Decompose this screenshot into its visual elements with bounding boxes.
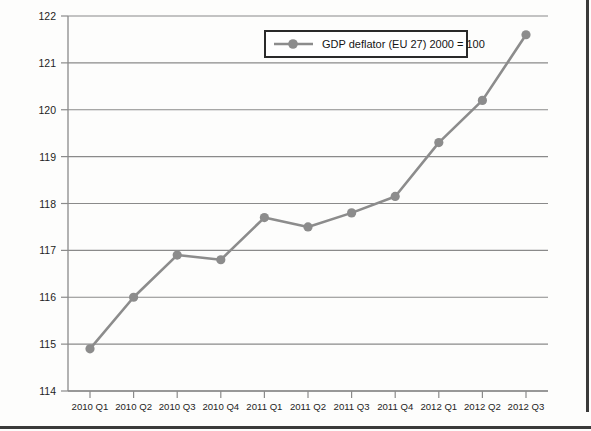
data-point-marker	[260, 213, 269, 222]
data-point-marker	[173, 250, 182, 259]
page-frame-right-rule	[586, 0, 589, 412]
series-gdp-deflator	[85, 30, 530, 353]
x-tick-label: 2011 Q4	[377, 401, 414, 412]
y-tick-labels: 114115116117118119120121122	[38, 10, 56, 397]
x-tick-marks	[90, 391, 526, 398]
data-point-marker	[85, 344, 94, 353]
y-axis	[61, 16, 68, 391]
y-tick-label: 122	[38, 10, 56, 22]
legend-sample-marker	[288, 39, 298, 49]
x-tick-label: 2011 Q2	[290, 401, 326, 412]
plot-svg: 114115116117118119120121122 2010 Q12010 …	[0, 0, 591, 431]
legend[interactable]: GDP deflator (EU 27) 2000 = 100	[265, 31, 485, 57]
y-tick-label: 118	[39, 198, 56, 210]
x-tick-label: 2012 Q3	[508, 401, 545, 412]
x-tick-label: 2012 Q1	[420, 401, 457, 412]
y-tick-label: 116	[39, 291, 56, 303]
legend-label: GDP deflator (EU 27) 2000 = 100	[322, 38, 485, 50]
data-point-marker	[391, 192, 400, 201]
gridlines	[68, 16, 548, 391]
x-tick-label: 2012 Q2	[464, 401, 501, 412]
data-point-marker	[478, 96, 487, 105]
x-tick-label: 2010 Q3	[159, 401, 196, 412]
series-line	[90, 35, 526, 349]
y-tick-label: 121	[38, 57, 56, 69]
y-tick-label: 117	[39, 244, 56, 256]
y-tick-label: 115	[39, 338, 56, 350]
data-point-marker	[129, 293, 138, 302]
data-point-marker	[434, 138, 443, 147]
data-point-marker	[216, 255, 225, 264]
x-tick-label: 2011 Q1	[246, 401, 282, 412]
x-tick-labels: 2010 Q12010 Q22010 Q32010 Q42011 Q12011 …	[72, 401, 545, 412]
data-point-marker	[303, 222, 312, 231]
chart-page: 114115116117118119120121122 2010 Q12010 …	[0, 0, 591, 431]
x-tick-label: 2011 Q3	[334, 401, 370, 412]
x-tick-label: 2010 Q2	[115, 401, 152, 412]
x-tick-label: 2010 Q1	[72, 401, 109, 412]
data-point-marker	[521, 30, 530, 39]
y-tick-label: 114	[39, 385, 56, 397]
y-tick-label: 120	[38, 104, 56, 116]
page-frame-bottom-rule	[0, 426, 591, 429]
gdp-deflator-line-chart: 114115116117118119120121122 2010 Q12010 …	[0, 0, 591, 431]
data-point-marker	[347, 208, 356, 217]
y-tick-label: 119	[39, 151, 56, 163]
x-tick-label: 2010 Q4	[202, 401, 239, 412]
